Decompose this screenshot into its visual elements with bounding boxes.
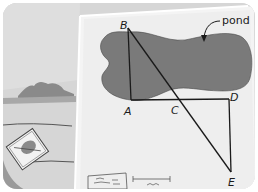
pond-label: pond: [222, 14, 250, 27]
point-label-b: B: [120, 19, 128, 32]
sky: [3, 3, 80, 90]
illustration-frame: pond B A C D E: [3, 3, 255, 189]
point-label-d: D: [230, 91, 238, 104]
pond-diagram-illustration: pond B A C D E: [3, 3, 255, 189]
point-label-c: C: [171, 104, 179, 117]
point-label-e: E: [228, 176, 235, 189]
point-label-a: A: [123, 105, 132, 118]
